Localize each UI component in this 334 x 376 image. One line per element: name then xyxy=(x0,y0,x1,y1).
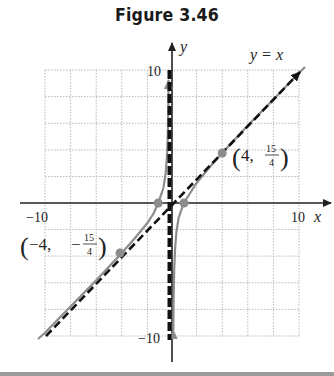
svg-text:15: 15 xyxy=(266,143,276,154)
y-max-label: 10 xyxy=(147,64,161,79)
y-axis-label: y xyxy=(178,38,188,56)
svg-text:(: ( xyxy=(232,143,241,172)
curve-right-branch xyxy=(173,67,305,330)
graph: y x −10 10 10 −10 y = x ( 4, 15 4 ) ( −4… xyxy=(0,0,334,376)
y-min-label: −10 xyxy=(138,331,160,346)
svg-text:4: 4 xyxy=(269,157,274,168)
curve-left-branch xyxy=(38,80,169,339)
point-4-15-4 xyxy=(218,149,227,158)
x-intercept-neg1 xyxy=(154,199,163,208)
x-intercept-1 xyxy=(180,199,189,208)
x-axis-label: x xyxy=(313,208,321,225)
svg-text:15: 15 xyxy=(84,232,94,243)
svg-text:4,: 4, xyxy=(241,146,254,165)
asymptote-label: y = x xyxy=(248,46,283,64)
svg-text:−4,: −4, xyxy=(29,235,51,254)
svg-text:): ) xyxy=(280,143,289,172)
point-label-negative: ( −4, − 15 4 ) xyxy=(20,232,107,261)
x-max-label: 10 xyxy=(291,210,305,225)
bottom-divider xyxy=(0,372,334,376)
point-label-positive: ( 4, 15 4 ) xyxy=(232,143,289,172)
svg-text:): ) xyxy=(98,232,107,261)
point-neg4-neg15-4 xyxy=(116,249,125,258)
x-min-label: −10 xyxy=(26,210,48,225)
svg-text:4: 4 xyxy=(87,246,92,257)
svg-text:−: − xyxy=(71,235,81,254)
svg-text:(: ( xyxy=(20,232,29,261)
